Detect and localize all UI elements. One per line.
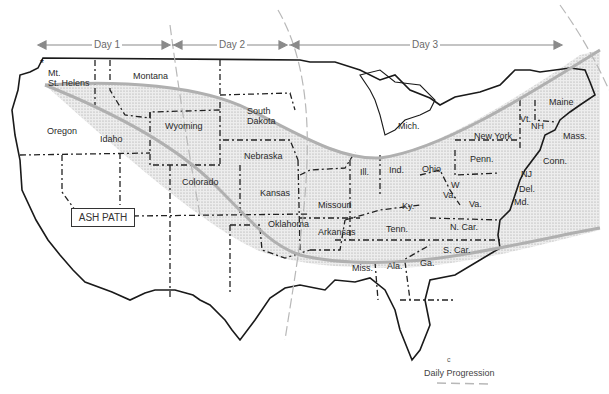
source-label-line1: Mt. xyxy=(48,68,61,78)
state-nebraska: Nebraska xyxy=(244,151,283,161)
state-ohio: Ohio xyxy=(422,164,441,174)
volcano-marker-icon: * xyxy=(40,58,44,69)
state-oregon: Oregon xyxy=(47,126,77,136)
state-new-york: New York xyxy=(474,131,512,141)
legend-label: Daily Progression xyxy=(424,368,495,378)
day-2-label: Day 2 xyxy=(217,39,247,50)
state-mississippi: Miss. xyxy=(352,263,373,273)
state-kansas: Kansas xyxy=(260,188,290,198)
state-montana: Montana xyxy=(133,71,168,81)
state-new-hampshire: NH xyxy=(531,121,544,131)
state-south-carolina: S. Car. xyxy=(443,245,471,255)
state-south-dakota-2: Dakota xyxy=(247,116,276,126)
state-alabama: Ala. xyxy=(387,261,403,271)
state-oklahoma: Oklahoma xyxy=(268,219,309,229)
state-virginia: Va. xyxy=(469,199,482,209)
state-wyoming: Wyoming xyxy=(165,121,202,131)
state-indiana: Ind. xyxy=(389,165,404,175)
state-west-virginia-1: W xyxy=(451,180,460,190)
state-kentucky: Ky. xyxy=(402,201,414,211)
state-massachusetts: Mass. xyxy=(563,131,587,141)
state-new-jersey: NJ xyxy=(521,169,532,179)
day-3-label: Day 3 xyxy=(410,39,440,50)
state-north-carolina: N. Car. xyxy=(450,222,478,232)
state-arkansas: Arkansas xyxy=(318,227,356,237)
state-illinois: Ill. xyxy=(360,167,369,177)
state-colorado: Colorado xyxy=(182,177,219,187)
source-label-line2: St. Helens xyxy=(48,78,90,88)
state-michigan: Mich. xyxy=(398,121,420,131)
state-west-virginia-2: Va. xyxy=(443,190,456,200)
state-missouri: Missouri xyxy=(318,200,352,210)
ash-path-label-box: ASH PATH xyxy=(71,208,135,227)
state-tennessee: Tenn. xyxy=(386,224,408,234)
day-1-label: Day 1 xyxy=(92,39,122,50)
state-idaho: Idaho xyxy=(100,134,123,144)
state-vermont: Vt. xyxy=(520,114,531,124)
legend-marker: c xyxy=(447,355,451,365)
state-south-dakota-1: South xyxy=(247,106,271,116)
state-maine: Maine xyxy=(549,97,574,107)
state-delaware: Del. xyxy=(519,184,535,194)
state-connecticut: Conn. xyxy=(543,156,567,166)
legend-progression-line xyxy=(437,383,490,384)
state-georgia: Ga. xyxy=(420,258,435,268)
state-pennsylvania: Penn. xyxy=(470,154,494,164)
state-maryland: Md. xyxy=(514,197,529,207)
